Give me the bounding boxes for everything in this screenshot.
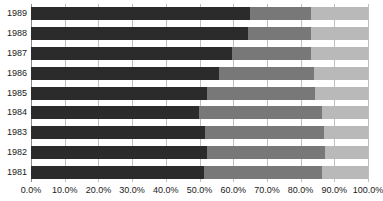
bar-segment-3: [324, 126, 368, 139]
y-axis-label: 1986: [7, 67, 27, 80]
bar-row: [31, 87, 368, 100]
x-axis-tick-label: 10.0%: [52, 184, 78, 197]
bar-segment-2: [248, 27, 311, 40]
bar-segment-2: [207, 146, 325, 159]
y-axis-label: 1985: [7, 87, 27, 100]
bar-segment-3: [322, 166, 368, 179]
bar-row: [31, 27, 368, 40]
bar-row: [31, 7, 368, 20]
y-axis-label: 1989: [7, 7, 27, 20]
bar-row: [31, 146, 368, 159]
stacked-bar-chart: 198919881987198619851984198319821981 0.0…: [0, 0, 383, 201]
bar-segment-1: [31, 106, 199, 119]
y-axis-category-labels: 198919881987198619851984198319821981: [0, 4, 29, 182]
bar-segment-1: [31, 146, 207, 159]
bar-segment-3: [311, 47, 368, 60]
bar-segment-1: [31, 87, 207, 100]
y-axis-label: 1983: [7, 126, 27, 139]
bar-segment-1: [31, 7, 250, 20]
bar-segment-2: [232, 47, 311, 60]
gridline: [368, 4, 369, 182]
bar-row: [31, 126, 368, 139]
x-axis-tick-label: 80.0%: [288, 184, 314, 197]
bar-row: [31, 67, 368, 80]
x-axis-tick-label: 60.0%: [220, 184, 246, 197]
bar-segment-3: [325, 146, 368, 159]
x-axis-tick-label: 20.0%: [86, 184, 112, 197]
bar-segment-2: [219, 67, 314, 80]
x-axis-tick-label: 40.0%: [153, 184, 179, 197]
y-axis-label: 1984: [7, 106, 27, 119]
bar-segment-2: [205, 126, 324, 139]
x-axis-tick-label: 0.0%: [21, 184, 42, 197]
plot-area: [31, 4, 368, 182]
y-axis-label: 1988: [7, 27, 27, 40]
bar-segment-3: [311, 7, 368, 20]
bar-segment-2: [204, 166, 322, 179]
x-axis-tick-label: 50.0%: [187, 184, 213, 197]
bar-segment-2: [250, 7, 311, 20]
bar-row: [31, 47, 368, 60]
bar-segment-1: [31, 27, 248, 40]
x-axis-tick-label: 90.0%: [322, 184, 348, 197]
bar-segment-1: [31, 126, 205, 139]
x-axis-tick-label: 70.0%: [254, 184, 280, 197]
y-axis-label: 1982: [7, 146, 27, 159]
bar-segment-3: [311, 27, 368, 40]
bar-segment-2: [199, 106, 322, 119]
bars-layer: [31, 4, 368, 182]
bar-segment-3: [315, 87, 368, 100]
bar-segment-1: [31, 47, 232, 60]
bar-row: [31, 166, 368, 179]
y-axis-label: 1981: [7, 166, 27, 179]
x-axis-tick-label: 30.0%: [119, 184, 145, 197]
bar-row: [31, 106, 368, 119]
bar-segment-1: [31, 67, 219, 80]
bar-segment-2: [207, 87, 315, 100]
x-axis-tick-label: 100.0%: [353, 184, 383, 197]
y-axis-label: 1987: [7, 47, 27, 60]
bar-segment-1: [31, 166, 204, 179]
x-axis-tick-labels: 0.0%10.0%20.0%30.0%40.0%50.0%60.0%70.0%8…: [0, 184, 383, 198]
bar-segment-3: [322, 106, 368, 119]
bar-segment-3: [314, 67, 368, 80]
